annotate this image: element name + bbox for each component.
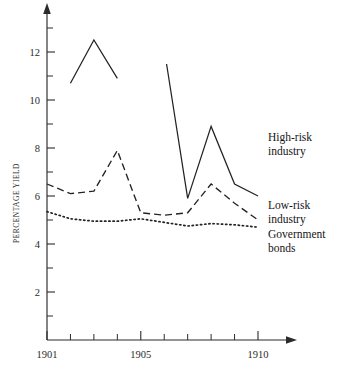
data-series <box>47 40 258 227</box>
series-label-dotted-line2: bonds <box>268 242 296 254</box>
y-tick-label-12: 12 <box>30 47 41 58</box>
series-label-dashed-line1: Low-risk <box>268 199 310 211</box>
x-tick-label-1910: 1910 <box>248 349 269 360</box>
y-tick-label-4: 4 <box>35 239 41 250</box>
series-label-dashed-line2: industry <box>268 213 306 226</box>
series-label-solid-line1: High-risk <box>268 131 312 144</box>
y-axis-arrow-icon <box>43 3 51 14</box>
x-axis-arrow-icon <box>286 336 297 344</box>
series-line-dotted-2-seg0 <box>47 212 258 228</box>
series-label-solid-line2: industry <box>268 145 306 158</box>
x-tick-label-1905: 1905 <box>130 349 151 360</box>
y-tick-label-8: 8 <box>35 143 40 154</box>
series-line-dashed-1-seg0 <box>47 150 258 220</box>
y-tick-label-6: 6 <box>35 191 40 202</box>
y-axis-ticks <box>47 28 55 316</box>
series-label-dotted-line1: Government <box>268 228 326 240</box>
x-tick-label-1901: 1901 <box>37 349 58 360</box>
y-axis-tick-labels: 24681012 <box>30 47 41 298</box>
y-tick-label-2: 2 <box>35 287 40 298</box>
series-line-solid-0-seg0 <box>70 40 117 83</box>
series-line-solid-0-seg1 <box>167 64 258 198</box>
axes <box>43 3 297 344</box>
x-axis-tick-labels: 190119051910 <box>37 349 269 360</box>
series-inline-labels: High-riskindustryLow-riskindustryGovernm… <box>268 131 326 254</box>
yield-line-chart: 24681012 190119051910 PERCENTAGE YIELD H… <box>0 0 346 375</box>
chart-canvas: 24681012 190119051910 PERCENTAGE YIELD H… <box>0 0 346 375</box>
y-tick-label-10: 10 <box>30 95 41 106</box>
x-axis-ticks <box>47 331 258 340</box>
y-axis-title: PERCENTAGE YIELD <box>12 163 21 243</box>
